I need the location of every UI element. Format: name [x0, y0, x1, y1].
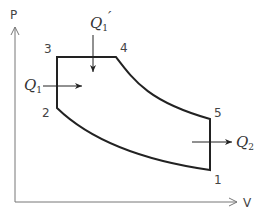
- q2-label: Q2: [236, 133, 254, 152]
- q1-label: Q1: [24, 76, 42, 95]
- point-label-4: 4: [120, 41, 128, 55]
- point-label-2: 2: [42, 106, 50, 120]
- p-axis-label: P: [10, 8, 17, 22]
- v-axis-label: V: [243, 196, 252, 210]
- point-label-1: 1: [214, 173, 222, 187]
- cycle-path: [57, 57, 210, 170]
- point-label-3: 3: [44, 42, 52, 56]
- q1-prime-label: Q1′: [90, 8, 112, 33]
- pv-diagram: P V 3 4 2 5 1 Q1′ Q1 Q2: [0, 0, 268, 215]
- point-label-5: 5: [214, 106, 222, 120]
